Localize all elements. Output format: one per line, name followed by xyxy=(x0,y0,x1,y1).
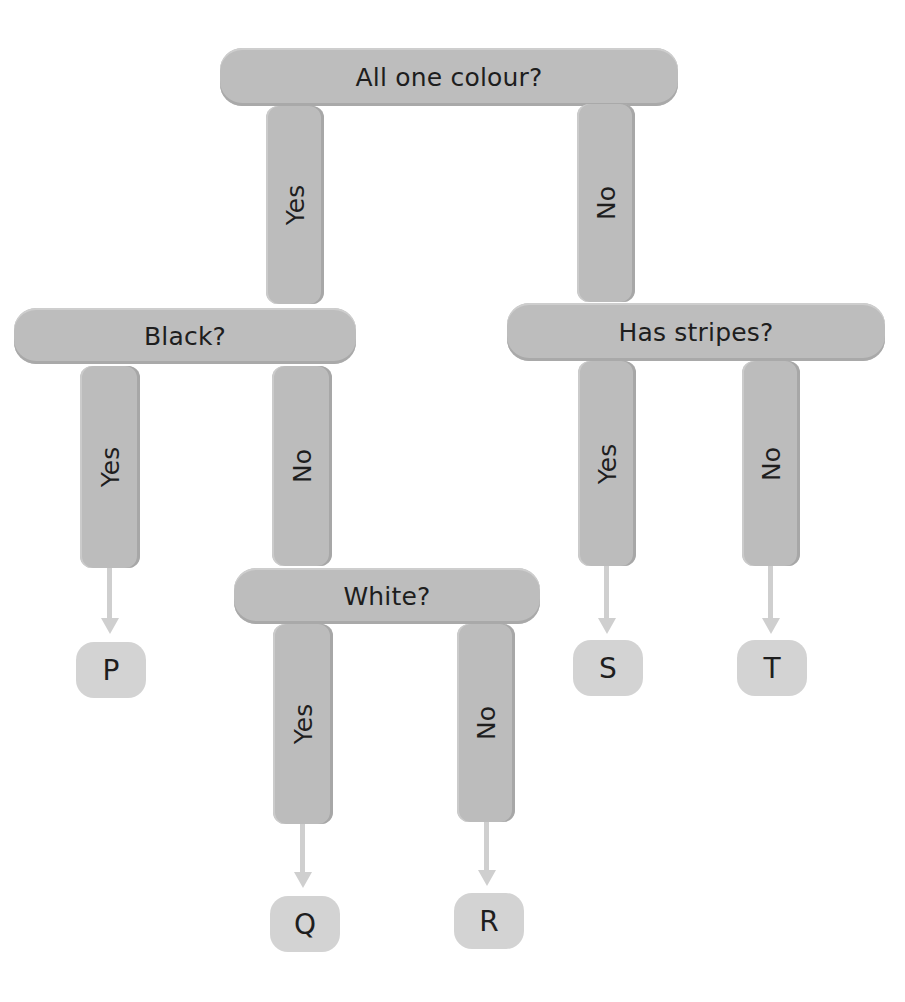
branch-black-no: No xyxy=(272,366,332,566)
leaf-label: P xyxy=(103,654,120,687)
node-black: Black? xyxy=(14,308,356,364)
branch-label: No xyxy=(757,447,786,481)
leaf-q: Q xyxy=(270,896,340,952)
branch-white-yes: Yes xyxy=(273,624,333,824)
branch-root-no: No xyxy=(577,104,635,302)
branch-black-yes: Yes xyxy=(80,366,140,568)
leaf-s: S xyxy=(573,640,643,696)
branch-label: No xyxy=(288,449,317,483)
node-label: Black? xyxy=(144,322,226,351)
branch-root-yes: Yes xyxy=(266,106,324,304)
branch-label: Yes xyxy=(593,443,622,483)
arrow-to-t xyxy=(768,566,773,620)
branch-label: Yes xyxy=(281,185,310,225)
node-has-stripes: Has stripes? xyxy=(507,303,885,361)
leaf-label: R xyxy=(479,905,498,938)
leaf-label: Q xyxy=(294,908,316,941)
branch-label: Yes xyxy=(96,447,125,487)
node-all-one-colour: All one colour? xyxy=(220,48,678,106)
arrow-to-r xyxy=(484,822,489,872)
branch-stripes-yes: Yes xyxy=(578,361,636,566)
branch-label: Yes xyxy=(289,704,318,744)
node-label: White? xyxy=(343,582,430,611)
node-white: White? xyxy=(234,568,540,624)
leaf-r: R xyxy=(454,893,524,949)
node-label: All one colour? xyxy=(355,63,542,92)
branch-white-no: No xyxy=(457,624,515,822)
arrow-to-p xyxy=(107,568,112,620)
arrow-to-q xyxy=(300,824,305,874)
branch-label: No xyxy=(472,706,501,740)
leaf-label: T xyxy=(763,652,780,685)
leaf-label: S xyxy=(599,652,617,685)
arrow-to-s xyxy=(604,566,609,620)
leaf-t: T xyxy=(737,640,807,696)
leaf-p: P xyxy=(76,642,146,698)
node-label: Has stripes? xyxy=(618,318,773,347)
branch-label: No xyxy=(592,186,621,220)
branch-stripes-no: No xyxy=(742,361,800,566)
